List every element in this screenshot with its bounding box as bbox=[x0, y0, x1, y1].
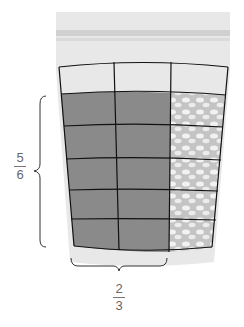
candy-column bbox=[169, 93, 226, 252]
bag-diagram bbox=[0, 0, 244, 327]
bag-seal bbox=[56, 30, 230, 36]
denominator: 6 bbox=[16, 167, 23, 182]
vertical-fraction-label: 5 6 bbox=[12, 151, 28, 182]
numerator: 5 bbox=[16, 150, 23, 165]
horizontal-fraction-label: 2 3 bbox=[111, 282, 127, 313]
denominator: 3 bbox=[115, 298, 122, 313]
vertical-brace bbox=[34, 96, 46, 247]
numerator: 2 bbox=[115, 281, 122, 296]
